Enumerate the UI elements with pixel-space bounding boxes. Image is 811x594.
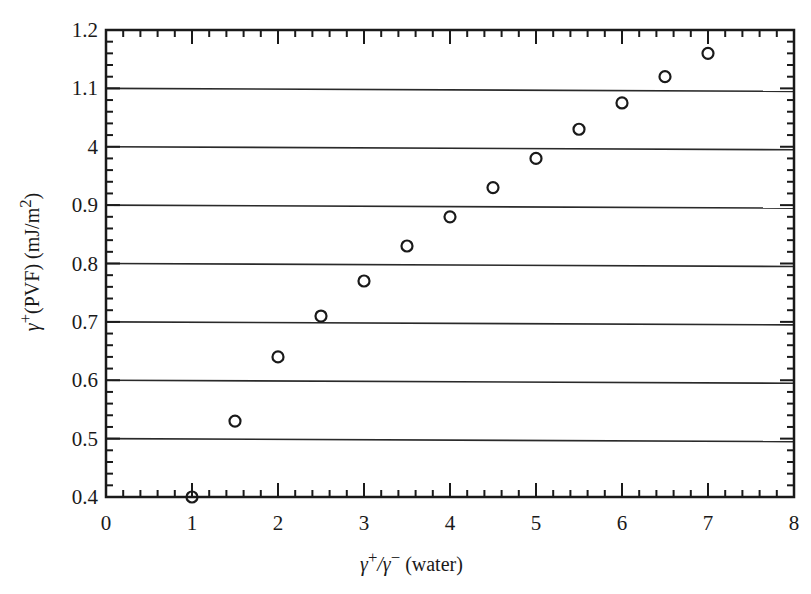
- y-tick-label: 0.5: [38, 429, 98, 450]
- x-tick-label: 3: [349, 513, 379, 534]
- y-tick-label: 0.4: [38, 487, 98, 508]
- data-point: [617, 97, 628, 108]
- y-tick-label: 0.8: [38, 254, 98, 275]
- data-point: [230, 416, 241, 427]
- y-title-gamma: γ: [21, 323, 43, 331]
- x-tick-label: 2: [263, 513, 293, 534]
- x-title-gamma: γ: [360, 553, 368, 575]
- data-points: [187, 48, 714, 503]
- y-title-sup-2: 2: [16, 199, 35, 207]
- data-point: [574, 124, 585, 135]
- gridline: [106, 322, 794, 325]
- x-title-sup-minus: −: [391, 548, 400, 567]
- data-point: [359, 276, 370, 287]
- data-point: [488, 182, 499, 193]
- data-point: [660, 71, 671, 82]
- y-tick-label: 1.2: [38, 20, 98, 41]
- y-axis-title: γ+(PVF) (mJ/m2): [16, 193, 44, 331]
- y-tick-label: 0.7: [38, 312, 98, 333]
- y-title-sup-plus: +: [16, 314, 35, 323]
- gridline: [106, 147, 794, 150]
- gridline: [106, 264, 794, 267]
- y-tick-label: 0.6: [38, 370, 98, 391]
- data-point: [316, 311, 327, 322]
- gridline: [106, 380, 794, 383]
- data-point: [703, 48, 714, 59]
- y-title-suffix: ): [21, 193, 43, 200]
- gridlines: [106, 88, 794, 441]
- data-point: [402, 240, 413, 251]
- x-tick-label: 7: [693, 513, 723, 534]
- x-tick-label: 5: [521, 513, 551, 534]
- x-tick-label: 8: [779, 513, 809, 534]
- y-tick-label: 0.9: [38, 195, 98, 216]
- gridline: [106, 88, 794, 91]
- data-point: [273, 351, 284, 362]
- y-title-mid: (PVF) (mJ/m: [21, 208, 43, 314]
- x-tick-label: 4: [435, 513, 465, 534]
- gridline: [106, 439, 794, 442]
- x-title-suffix: (water): [400, 553, 463, 575]
- scatter-chart: [0, 0, 811, 594]
- y-tick-label: 4: [38, 137, 98, 158]
- x-axis-title: γ+/γ− (water): [360, 548, 463, 576]
- gridline: [106, 205, 794, 208]
- y-tick-label: 1.1: [38, 78, 98, 99]
- data-point: [531, 153, 542, 164]
- x-title-mid: /γ: [377, 553, 390, 575]
- x-tick-label: 0: [91, 513, 121, 534]
- x-title-sup-plus: +: [368, 548, 377, 567]
- x-tick-label: 6: [607, 513, 637, 534]
- x-tick-label: 1: [177, 513, 207, 534]
- data-point: [445, 211, 456, 222]
